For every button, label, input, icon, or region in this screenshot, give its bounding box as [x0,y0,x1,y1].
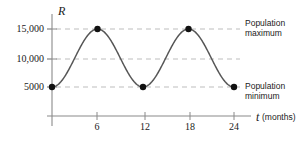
data-point-marker [94,26,100,32]
annotation-population-maximum: Population maximum [245,18,285,38]
annotation-population-minimum: Population minimum [245,81,285,101]
y-axis-label: R [58,4,65,19]
y-tick-label-10000: 10,000 [2,53,44,64]
population-curve-figure: R 15,000 10,000 5000 6 12 18 24 t (month… [0,0,301,144]
x-tick-label-6: 6 [85,121,109,132]
data-point-marker [49,84,55,90]
y-tick-label-5000: 5000 [2,81,44,92]
x-tick-label-18: 18 [178,121,202,132]
annotation-min-line2: minimum [245,91,285,101]
x-tick-label-24: 24 [222,121,246,132]
y-tick-label-15000: 15,000 [2,23,44,34]
annotation-max-line2: maximum [245,28,285,38]
x-axis-label-units: (months) [262,112,296,122]
data-point-marker [231,84,237,90]
data-point-marker [185,26,191,32]
data-point-markers [49,26,237,90]
annotation-max-line1: Population [245,18,285,28]
x-axis-label-symbol: t [256,110,259,125]
data-point-marker [140,84,146,90]
x-tick-label-12: 12 [133,121,157,132]
population-curve [52,29,234,87]
annotation-min-line1: Population [245,81,285,91]
